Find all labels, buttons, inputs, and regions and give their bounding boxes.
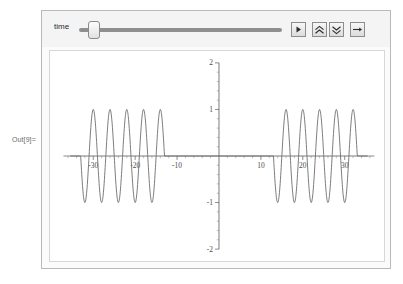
arrow-right-icon — [352, 25, 363, 34]
output-label: Out[9]= — [12, 136, 36, 143]
play-icon — [294, 25, 303, 34]
step-forward-button[interactable] — [350, 22, 365, 37]
svg-text:-30: -30 — [88, 161, 98, 170]
svg-text:-10: -10 — [172, 161, 182, 170]
play-button[interactable] — [291, 22, 306, 37]
svg-text:30: 30 — [341, 161, 349, 170]
speed-up-button[interactable] — [312, 22, 327, 37]
manipulate-control-row: time — [42, 11, 390, 47]
double-chevron-up-icon — [314, 25, 325, 35]
speed-down-button[interactable] — [329, 22, 344, 37]
svg-text:-2: -2 — [207, 245, 213, 254]
time-slider-thumb[interactable] — [88, 21, 100, 39]
svg-text:-1: -1 — [207, 198, 213, 207]
svg-text:20: 20 — [299, 161, 307, 170]
svg-text:10: 10 — [257, 161, 265, 170]
manipulate-panel: time — [41, 10, 391, 269]
svg-text:1: 1 — [209, 105, 213, 114]
time-slider[interactable] — [79, 21, 282, 39]
time-slider-track[interactable] — [79, 28, 282, 32]
double-chevron-down-icon — [331, 25, 342, 35]
wave-plot: -30-20-10102030-2-112 — [50, 51, 384, 261]
plot-area[interactable]: -30-20-10102030-2-112 — [49, 50, 385, 262]
time-slider-label: time — [54, 22, 69, 31]
svg-text:2: 2 — [209, 58, 213, 67]
